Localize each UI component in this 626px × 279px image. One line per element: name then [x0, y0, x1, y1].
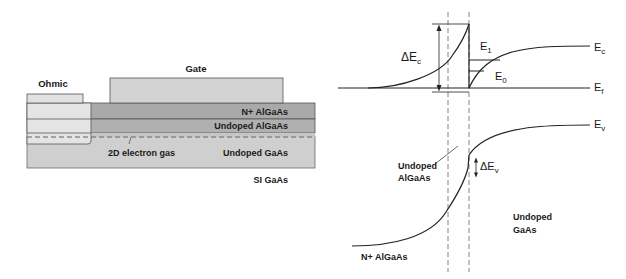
hemt-cross-section: Gate Ohmic N+ AlGaAs Undoped AlGaAs 2D e…	[0, 0, 626, 279]
band-undoped-algaas-label-1: Undoped	[398, 161, 437, 171]
delta-ev-arrow-up-icon	[474, 158, 478, 163]
delta-ev-arrow-down-icon	[474, 173, 478, 178]
undoped-gaas-label: Undoped GaAs	[223, 148, 288, 158]
band-n-algaas-label: N+ AlGaAs	[361, 252, 407, 262]
ohmic-label: Ohmic	[38, 78, 68, 89]
band-undoped-algaas-label-2: AlGaAs	[398, 173, 431, 183]
e1-label: E1	[480, 40, 492, 55]
delta-ec-label: ΔEc	[401, 50, 421, 66]
ohmic-alloyed-region	[27, 103, 91, 144]
gate-label: Gate	[185, 63, 206, 74]
delta-ev-label: ΔEv	[480, 160, 499, 175]
conduction-band-algaas	[368, 24, 469, 88]
undoped-algaas-pointer	[435, 146, 458, 164]
si-gaas-label: SI GaAs	[253, 175, 288, 185]
gate-electrode	[110, 78, 283, 103]
e0-label: E0	[495, 70, 507, 85]
ec-label: Ec	[594, 41, 605, 56]
valence-band-gaas	[469, 125, 590, 155]
ev-label: Ev	[594, 118, 605, 133]
undoped-algaas-label: Undoped AlGaAs	[214, 121, 288, 131]
band-undoped-gaas-label-2: GaAs	[513, 225, 537, 235]
two-deg-label: 2D electron gas	[108, 148, 175, 158]
delta-ec-arrow-up-icon	[437, 25, 442, 32]
ohmic-contact	[27, 94, 83, 103]
n-algaas-label: N+ AlGaAs	[242, 107, 288, 117]
ef-label: Ef	[594, 81, 604, 96]
band-undoped-gaas-label-1: Undoped	[513, 212, 552, 222]
